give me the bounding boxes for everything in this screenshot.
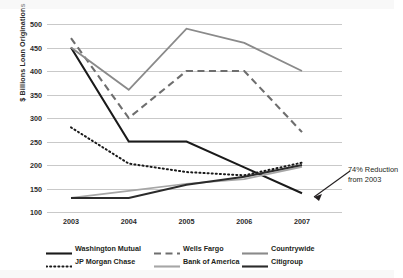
plot-area: 100150200250300350400450500 200320042005…	[47, 24, 342, 212]
x-axis-tick-label: 2004	[121, 217, 137, 226]
legend-label: JP Morgan Chase	[75, 257, 135, 266]
y-axis-tick-label: 350	[30, 90, 42, 99]
legend-swatch-icon	[154, 244, 180, 253]
y-axis-title: $ Billions Loan Originations	[18, 0, 27, 133]
legend-swatch-icon	[242, 244, 268, 253]
x-axis-tick-label: 2005	[179, 217, 195, 226]
legend-item-wells-fargo[interactable]: Wells Fargo	[154, 242, 224, 255]
legend-row: Washington MutualWells FargoCountrywide	[46, 242, 346, 255]
y-axis-tick-label: 400	[30, 67, 42, 76]
annotation-arrow-icon	[300, 168, 354, 208]
legend-label: Bank of America	[183, 257, 239, 266]
series-line-countrywide	[71, 29, 302, 90]
y-axis-tick-label: 300	[30, 114, 42, 123]
reduction-annotation: 74% Reduction from 2003	[348, 165, 403, 184]
legend-label: Wells Fargo	[183, 244, 224, 253]
legend-item-bank-of-america[interactable]: Bank of America	[154, 255, 239, 268]
gridline	[47, 212, 342, 213]
y-axis-tick-label: 150	[30, 184, 42, 193]
scan-artifact	[0, 0, 394, 9]
series-line-jp-morgan-chase	[71, 127, 302, 175]
scan-artifact	[0, 270, 394, 278]
legend-item-countrywide[interactable]: Countrywide	[242, 242, 315, 255]
legend-swatch-icon	[46, 244, 72, 253]
annotation-line-1: 74% Reduction	[348, 165, 403, 175]
y-axis-tick-label: 100	[30, 208, 42, 217]
y-axis-tick-label: 250	[30, 137, 42, 146]
x-axis-tick-label: 2006	[236, 217, 252, 226]
legend-item-jp-morgan-chase[interactable]: JP Morgan Chase	[46, 255, 135, 268]
series-line-wells-fargo	[71, 38, 302, 132]
legend-label: Washington Mutual	[75, 244, 141, 253]
legend-row: JP Morgan ChaseBank of AmericaCitigroup	[46, 255, 346, 268]
x-axis-tick-label: 2003	[63, 217, 79, 226]
series-lines	[47, 24, 342, 212]
annotation-line-2: from 2003	[348, 175, 403, 185]
legend-swatch-icon	[242, 257, 268, 266]
legend-item-citigroup[interactable]: Citigroup	[242, 255, 303, 268]
legend-label: Citigroup	[271, 257, 303, 266]
legend-swatch-icon	[46, 257, 72, 266]
legend-swatch-icon	[154, 257, 180, 266]
y-axis-tick-label: 200	[30, 161, 42, 170]
chart-legend: Washington MutualWells FargoCountrywideJ…	[46, 242, 346, 268]
y-axis-tick-label: 450	[30, 43, 42, 52]
legend-item-washington-mutual[interactable]: Washington Mutual	[46, 242, 141, 255]
y-axis-tick-label: 500	[30, 20, 42, 29]
x-axis-tick-label: 2007	[294, 217, 310, 226]
legend-label: Countrywide	[271, 244, 315, 253]
